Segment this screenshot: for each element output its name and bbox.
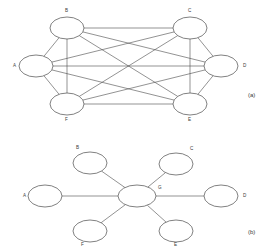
node-label-A: A: [23, 193, 27, 198]
topology-diagram-canvas: ABCDEF(a)GABCDEF(b): [0, 0, 278, 251]
node-E[interactable]: [159, 220, 193, 242]
node-A[interactable]: [19, 55, 53, 77]
node-A[interactable]: [28, 185, 62, 207]
node-F[interactable]: [73, 220, 107, 242]
node-label-D: D: [243, 193, 247, 198]
node-label-B: B: [76, 145, 79, 150]
node-F[interactable]: [50, 93, 84, 115]
node-B[interactable]: [50, 17, 84, 39]
network-topology-figure: ABCDEF(a)GABCDEF(b): [0, 0, 278, 251]
node-D[interactable]: [204, 55, 238, 77]
edge-A-F: [44, 76, 59, 95]
node-label-F: F: [81, 242, 84, 247]
panel-full-mesh: ABCDEF(a): [13, 8, 255, 122]
node-label-C: C: [188, 8, 192, 13]
node-label-F: F: [65, 117, 68, 122]
edge-G-C: [148, 173, 166, 187]
node-B[interactable]: [73, 152, 107, 174]
node-label-D: D: [243, 63, 247, 68]
node-label-A: A: [13, 63, 17, 68]
panel-caption-panel-b: (b): [248, 229, 255, 235]
edge-A-B: [44, 38, 59, 57]
node-C[interactable]: [173, 17, 207, 39]
edge-G-B: [102, 171, 125, 187]
edge-G-E: [147, 205, 166, 222]
node-E[interactable]: [173, 93, 207, 115]
node-D[interactable]: [204, 185, 238, 207]
node-group: GABCDEF: [23, 145, 247, 247]
edge-G-F: [101, 205, 125, 223]
node-label-C: C: [190, 146, 194, 151]
node-label-E: E: [174, 242, 177, 247]
node-G[interactable]: [118, 185, 156, 207]
edge-group: [44, 28, 213, 104]
node-label-E: E: [188, 117, 191, 122]
panel-star: GABCDEF(b): [23, 145, 255, 247]
node-C[interactable]: [159, 153, 193, 175]
edge-D-E: [198, 76, 213, 95]
node-label-G: G: [158, 185, 162, 190]
node-label-B: B: [65, 8, 68, 13]
edge-C-D: [198, 38, 213, 57]
panel-caption-panel-a: (a): [248, 92, 255, 98]
